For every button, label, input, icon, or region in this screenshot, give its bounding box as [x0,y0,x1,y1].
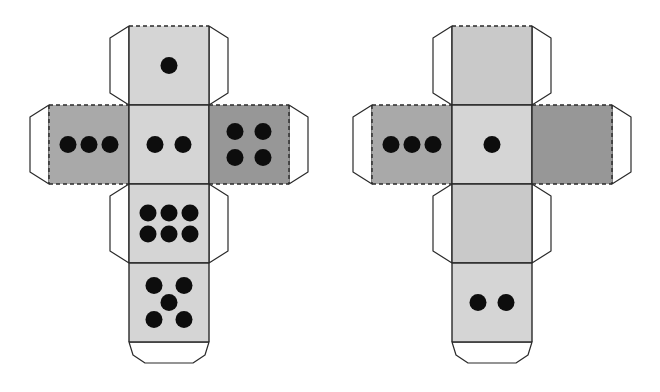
pip [161,205,178,222]
pip [182,226,199,243]
glue-tab-bottom [129,342,209,363]
pip [176,311,193,328]
pip [227,123,244,140]
pip [146,277,163,294]
die-net-left-lower-face-6 [110,184,228,263]
face-fill [532,105,612,184]
pip [484,136,501,153]
pip [102,136,119,153]
die-net-left-left-face-3 [30,105,129,184]
pip [175,136,192,153]
die-net-right-bottom-face-2 [452,263,532,363]
die-net-left-top-face-1 [110,26,228,105]
dice-nets-canvas [0,0,660,392]
face-fill [209,105,289,184]
pip [498,294,515,311]
face-fill [452,184,532,263]
pip [60,136,77,153]
glue-tab-left [353,105,372,184]
pip [140,226,157,243]
die-net-left-right-face-4 [209,105,308,184]
pip [182,205,199,222]
die-net-right-lower-face-blank [433,184,551,263]
die-net-left [30,26,308,363]
pip [176,277,193,294]
pip [255,149,272,166]
glue-tab-left [110,184,129,263]
glue-tab-bottom [452,342,532,363]
glue-tab-left [110,26,129,105]
glue-tab-right [209,26,228,105]
pip [255,123,272,140]
die-net-right-center-face-1 [452,105,532,184]
pip [161,57,178,74]
glue-tab-left [433,26,452,105]
dice-nets-figure [0,0,660,392]
die-net-right-top-face-blank [433,26,551,105]
pip [404,136,421,153]
die-net-right-left-face-3 [353,105,452,184]
die-net-right-right-face-blank [532,105,631,184]
face-fill [129,184,209,263]
pip [227,149,244,166]
glue-tab-right [532,26,551,105]
die-net-left-bottom-face-5 [129,263,209,363]
face-fill [452,263,532,342]
pip [425,136,442,153]
pip [383,136,400,153]
glue-tab-right [209,184,228,263]
pip [161,294,178,311]
glue-tab-left [433,184,452,263]
pip [81,136,98,153]
pip [470,294,487,311]
glue-tab-right [612,105,631,184]
pip [161,226,178,243]
pip [140,205,157,222]
face-fill [452,26,532,105]
face-fill [129,105,209,184]
pip [147,136,164,153]
glue-tab-right [289,105,308,184]
die-net-right [353,26,631,363]
die-net-left-center-face-2 [129,105,209,184]
pip [146,311,163,328]
glue-tab-right [532,184,551,263]
glue-tab-left [30,105,49,184]
